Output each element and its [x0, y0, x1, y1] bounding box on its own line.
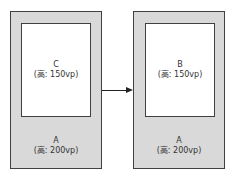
left-outer-box-a: C (高: 150vp) A (高: 200vp)	[10, 11, 102, 169]
left-outer-name: A	[11, 136, 101, 146]
right-outer-height: (高: 200vp)	[134, 146, 224, 156]
right-outer-box-a: B (高: 150vp) A (高: 200vp)	[133, 11, 225, 169]
right-inner-height: (高: 150vp)	[146, 70, 214, 80]
right-inner-box-b: B (高: 150vp)	[145, 23, 215, 117]
right-outer-name: A	[134, 136, 224, 146]
left-outer-height: (高: 200vp)	[11, 146, 101, 156]
arrow-right-icon	[126, 87, 133, 93]
left-inner-box-c: C (高: 150vp)	[21, 23, 91, 117]
left-inner-name: C	[22, 60, 90, 70]
left-inner-height: (高: 150vp)	[22, 70, 90, 80]
right-inner-name: B	[146, 60, 214, 70]
transition-arrow-line	[102, 90, 127, 91]
